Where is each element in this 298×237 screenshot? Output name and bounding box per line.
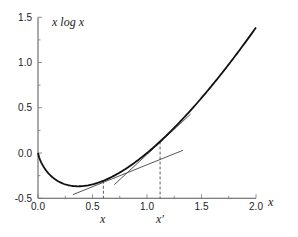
tick-labels: 0.00.51.01.52.0-0.50.00.51.01.5 xyxy=(15,12,264,213)
y-tick-label: -0.5 xyxy=(15,193,33,204)
axes xyxy=(38,17,256,198)
chart: 0.00.51.01.52.0-0.50.00.51.01.5 x log x … xyxy=(0,0,298,237)
x-tick-label: 0.0 xyxy=(31,201,45,212)
y-tick-label: 1.5 xyxy=(18,12,32,23)
marker-x-label: x xyxy=(99,212,106,226)
x-tick-label: 2.0 xyxy=(249,201,263,212)
x-tick-label: 0.5 xyxy=(86,201,100,212)
tick-marks xyxy=(38,17,256,198)
function-label: x log x xyxy=(51,15,85,29)
x-axis-label: x xyxy=(267,195,274,209)
y-tick-label: 0.5 xyxy=(18,102,32,113)
x-tick-label: 1.5 xyxy=(195,201,209,212)
y-tick-label: 0.0 xyxy=(18,148,32,159)
tangent-lines xyxy=(73,114,191,195)
marker-x-prime-label: x′ xyxy=(155,212,164,226)
curve-x-log-x xyxy=(38,28,256,187)
x-tick-label: 1.0 xyxy=(140,201,154,212)
y-tick-label: 1.0 xyxy=(18,57,32,68)
